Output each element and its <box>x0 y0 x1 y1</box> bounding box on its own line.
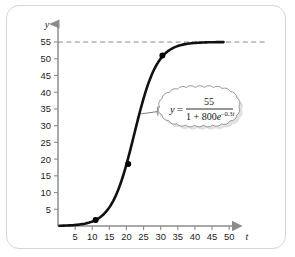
y-tick-label: 35 <box>41 103 51 114</box>
y-tick-label: 20 <box>41 154 51 165</box>
x-tick-label: 45 <box>207 231 217 242</box>
y-tick-label: 40 <box>41 87 51 98</box>
y-tick-label: 5 <box>46 204 51 215</box>
y-tick-group: 510152025303540455055 <box>41 36 58 214</box>
y-tick-label: 15 <box>41 170 51 181</box>
y-tick-label: 45 <box>41 70 51 81</box>
x-tick-label: 5 <box>73 231 78 242</box>
x-tick-group: 5101520253035404550 <box>73 226 235 242</box>
equation-equals: = <box>177 104 183 115</box>
equation-lhs: y <box>169 104 175 115</box>
x-tick-label: 35 <box>173 231 183 242</box>
x-tick-label: 10 <box>87 231 97 242</box>
denominator-exponent-sign: –0.3 <box>220 110 233 117</box>
x-tick-label: 40 <box>190 231 200 242</box>
point-a <box>93 217 99 223</box>
chart-svg: 510152025303540455055 510152025303540455… <box>0 0 295 257</box>
logistic-growth-figure: 510152025303540455055 510152025303540455… <box>0 0 295 257</box>
denominator-lead: 1 + 800 <box>186 111 217 122</box>
logistic-curve <box>59 42 223 226</box>
point-b <box>125 161 131 167</box>
x-tick-label: 15 <box>104 231 114 242</box>
data-point-group <box>93 52 166 223</box>
y-tick-label: 50 <box>41 53 51 64</box>
x-tick-label: 25 <box>138 231 148 242</box>
y-tick-label: 25 <box>41 137 51 148</box>
y-tick-label: 55 <box>41 36 51 47</box>
denominator-exponent-var: t <box>233 110 235 117</box>
y-tick-label: 10 <box>41 187 51 198</box>
x-tick-label: 50 <box>224 231 234 242</box>
point-c <box>159 52 165 58</box>
y-tick-label: 30 <box>41 120 51 131</box>
x-tick-label: 20 <box>121 231 131 242</box>
x-axis-label: t <box>246 231 249 242</box>
equation-numerator: 55 <box>204 96 214 107</box>
x-tick-label: 30 <box>155 231 165 242</box>
y-axis-label: y <box>44 19 50 30</box>
